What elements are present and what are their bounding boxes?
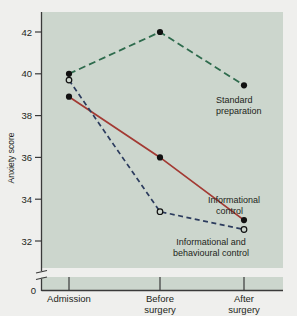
y-tick-label-34: 34 (21, 194, 32, 205)
data-point-standard-after-surgery (241, 82, 247, 88)
legend-label-standard-preparation-line1: Standard (216, 95, 253, 105)
y-tick-label-38: 38 (21, 110, 32, 121)
data-point-standard-admission (66, 71, 72, 77)
y-axis-title: Anxiety score (6, 132, 16, 183)
legend-label-informational-control-line1: Informational (208, 195, 260, 205)
legend-label-standard-preparation-line2: preparation (216, 106, 262, 116)
y-tick-label-40: 40 (21, 68, 32, 79)
legend-label-informational-control-line2: control (216, 206, 243, 216)
data-point-infobehav-before-surgery (157, 209, 163, 215)
x-label-after-surgery-line1: After (234, 293, 254, 304)
y-axis-ticks (35, 32, 42, 241)
x-label-after-surgery-line2: surgery (228, 304, 260, 315)
y-tick-label-42: 42 (21, 27, 32, 38)
legend-label-informational-behavioural-line2: behavioural control (173, 248, 249, 258)
data-point-infobehav-admission (66, 77, 72, 83)
legend-label-informational-behavioural-line1: Informational and (176, 237, 246, 247)
y-tick-label-36: 36 (21, 152, 32, 163)
data-point-infocontrol-after-surgery (241, 217, 247, 223)
x-label-before-surgery-line2: surgery (144, 304, 176, 315)
x-label-before-surgery-line1: Before (146, 293, 174, 304)
plot-background-baseline-strip (41, 277, 283, 290)
data-point-standard-before-surgery (157, 29, 163, 35)
data-point-infocontrol-before-surgery (157, 154, 163, 160)
y-tick-label-zero: 0 (31, 285, 36, 296)
data-point-infobehav-after-surgery (241, 227, 247, 233)
y-tick-label-32: 32 (21, 236, 32, 247)
data-point-infocontrol-admission (66, 94, 72, 100)
x-label-admission: Admission (47, 293, 91, 304)
anxiety-score-line-chart: 42 40 38 36 34 32 0 Anxiety score Admiss… (0, 0, 297, 316)
